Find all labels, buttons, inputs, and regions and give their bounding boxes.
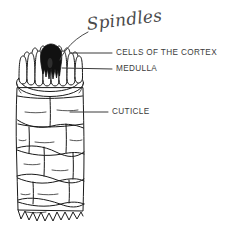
cuticle-scales — [16, 88, 84, 213]
torn-bottom-edge — [18, 210, 83, 221]
label-cuticle: CUTICLE — [112, 108, 149, 116]
label-medulla: MEDULLA — [116, 65, 157, 73]
label-cells-of-the-cortex: CELLS OF THE CORTEX — [116, 49, 217, 57]
hair-shaft-diagram-canvas: Spindles CELLS OF THE CORTEX MEDULLA CUT… — [0, 0, 238, 232]
